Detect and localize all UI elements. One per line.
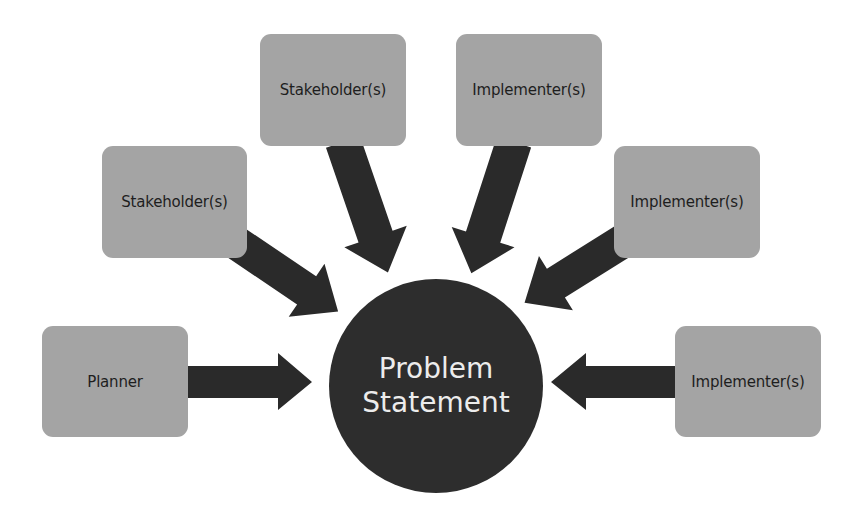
node-implementer-top: Implementer(s) (456, 34, 602, 146)
node-label: Implementer(s) (691, 373, 804, 391)
arrow-implementer-right-lower-to-center (551, 353, 678, 410)
node-planner: Planner (42, 326, 188, 437)
arrow-planner-to-center (186, 353, 312, 410)
arrow-implementer-top-to-center (440, 132, 545, 284)
node-label: Planner (87, 373, 142, 391)
center-label-line1: Problem (379, 352, 493, 386)
node-stakeholder-top: Stakeholder(s) (260, 34, 406, 146)
arrow-stakeholder-top-to-center (312, 131, 419, 283)
node-label: Stakeholder(s) (280, 81, 386, 99)
node-stakeholder-left: Stakeholder(s) (102, 146, 247, 258)
node-implementer-right-lower: Implementer(s) (675, 326, 821, 437)
node-label: Implementer(s) (472, 81, 585, 99)
center-label-line2: Statement (362, 386, 509, 420)
node-label: Stakeholder(s) (121, 193, 227, 211)
center-problem-statement: Problem Statement (329, 279, 543, 493)
node-label: Implementer(s) (630, 193, 743, 211)
node-implementer-right-upper: Implementer(s) (614, 146, 760, 258)
